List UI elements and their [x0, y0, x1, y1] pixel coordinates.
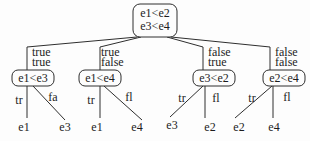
branch1-edge-label-2: true — [32, 55, 51, 69]
branch3-false-edge-label: fl — [212, 91, 220, 105]
branch2-false-leaf: e4 — [131, 120, 142, 134]
branch3-false-leaf: e2 — [204, 120, 215, 134]
branch3-true-leaf: e3 — [166, 118, 177, 132]
branch3-true-edge-label: tr — [178, 91, 185, 105]
root-node-label-line2: e3<e4 — [140, 19, 169, 33]
branch1-false-edge-label: fa — [48, 90, 58, 104]
branch3-edge-label-2: true — [208, 55, 227, 69]
branch1-false-leaf: e3 — [59, 120, 70, 134]
branch2-edge-label-2: false — [101, 55, 124, 69]
decision-tree-diagram: e1<e2 e3<e4 true true true false false t… — [0, 0, 310, 141]
branch2-false-edge-label: fl — [125, 90, 133, 104]
branch2-node-label: e1<e4 — [85, 71, 114, 85]
root-node-label-line1: e1<e2 — [140, 6, 169, 20]
branch4-node-label: e2<e4 — [269, 71, 298, 85]
branch4-false-edge-label: fl — [283, 90, 291, 104]
decision-tree-canvas: e1<e2 e3<e4 true true true false false t… — [0, 0, 310, 141]
branch4-true-edge-label: tr — [248, 91, 255, 105]
branch4-edge-label-2: false — [275, 55, 298, 69]
branch1-true-leaf: e1 — [18, 120, 29, 134]
branch4-true-leaf: e2 — [233, 120, 244, 134]
edge-root-to-branch3 — [167, 37, 203, 70]
branch2-true-edge-label: tr — [87, 93, 94, 107]
edge-branch2-false — [104, 86, 142, 120]
branch3-node-label: e3<e2 — [199, 71, 228, 85]
edge-branch3-true — [170, 86, 203, 117]
branch2-true-leaf: e1 — [91, 120, 102, 134]
branch4-false-leaf: e4 — [268, 120, 279, 134]
branch1-true-edge-label: tr — [15, 93, 22, 107]
branch1-node-label: e1<e3 — [18, 71, 47, 85]
